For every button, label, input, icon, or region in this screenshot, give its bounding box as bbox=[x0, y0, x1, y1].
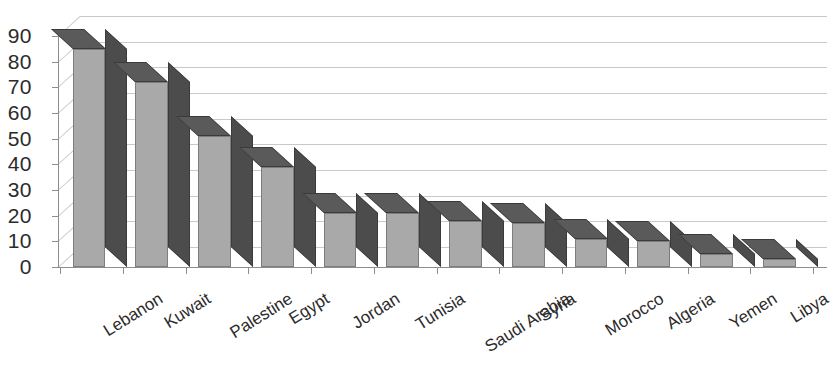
y-axis-tick-label: 90 bbox=[0, 25, 32, 46]
bar bbox=[324, 8, 379, 283]
bar-front-face bbox=[261, 167, 294, 267]
x-axis-tick-mark bbox=[688, 267, 689, 274]
x-axis-category-label: Palestine bbox=[227, 289, 297, 343]
y-axis-tick-label: 80 bbox=[0, 51, 32, 72]
bar-front-face bbox=[198, 136, 231, 267]
y-axis-tick-label: 50 bbox=[0, 128, 32, 149]
y-axis-tick-label: 60 bbox=[0, 102, 32, 123]
bar bbox=[198, 8, 253, 283]
bar bbox=[135, 8, 190, 283]
bar-front-face bbox=[386, 213, 419, 267]
bar-front-face bbox=[575, 239, 608, 267]
y-axis-tick-label: 70 bbox=[0, 76, 32, 97]
x-axis-category-label: Egypt bbox=[285, 289, 332, 329]
bar bbox=[449, 8, 504, 283]
x-axis-tick-mark bbox=[437, 267, 438, 274]
x-axis-tick-mark bbox=[311, 267, 312, 274]
bar-side-face bbox=[545, 203, 567, 267]
bar bbox=[637, 8, 692, 283]
bar bbox=[763, 8, 818, 283]
y-axis-tick-label: 40 bbox=[0, 153, 32, 174]
x-axis-tick-mark bbox=[374, 267, 375, 274]
bar-front-face bbox=[512, 223, 545, 267]
bar-front-face bbox=[324, 213, 357, 267]
bar bbox=[512, 8, 567, 283]
x-axis-category-label: Syria bbox=[536, 289, 579, 326]
x-axis-tick-mark bbox=[750, 267, 751, 274]
bar bbox=[73, 8, 128, 283]
bar bbox=[386, 8, 441, 283]
x-axis-category-label: Jordan bbox=[349, 289, 404, 334]
y-axis-tick-label: 10 bbox=[0, 230, 32, 251]
bar-side-face bbox=[231, 116, 253, 267]
x-axis-category-label: Algeria bbox=[663, 289, 718, 334]
x-axis-category-label: Lebanon bbox=[100, 289, 167, 341]
bar-front-face bbox=[73, 49, 106, 267]
x-axis-category-labels: LebanonKuwaitPalestineEgyptJordanTunisia… bbox=[0, 283, 827, 384]
bar-side-face bbox=[294, 147, 316, 267]
bar-side-face bbox=[356, 193, 378, 267]
x-axis-tick-mark bbox=[123, 267, 124, 274]
x-axis-category-label: Morocco bbox=[602, 289, 668, 341]
x-axis-tick-mark bbox=[186, 267, 187, 274]
x-axis-tick-mark bbox=[499, 267, 500, 274]
x-axis-category-label: Yemen bbox=[726, 289, 781, 334]
x-axis-category-label: Tunisia bbox=[412, 289, 469, 335]
bar-front-face bbox=[637, 241, 670, 267]
bar-side-face bbox=[796, 239, 818, 267]
x-axis-tick-mark bbox=[248, 267, 249, 274]
y-axis-tick-label: 20 bbox=[0, 205, 32, 226]
y-axis-tick-label: 0 bbox=[0, 256, 32, 277]
plot-area bbox=[40, 8, 827, 283]
bar bbox=[575, 8, 630, 283]
bar-front-face bbox=[700, 254, 733, 267]
x-axis-category-label: Libya bbox=[787, 289, 832, 327]
bar bbox=[261, 8, 316, 283]
x-axis-line bbox=[58, 267, 827, 268]
bar-front-face bbox=[135, 82, 168, 267]
bar-front-face bbox=[763, 259, 796, 267]
x-axis-tick-mark bbox=[813, 267, 814, 274]
bar-side-face bbox=[168, 62, 190, 267]
y-axis-line bbox=[58, 36, 59, 267]
x-axis-category-label: Kuwait bbox=[161, 289, 215, 333]
x-axis-tick-mark bbox=[562, 267, 563, 274]
bar-front-face bbox=[449, 221, 482, 267]
y-axis-tick-label: 30 bbox=[0, 179, 32, 200]
x-axis-tick-mark bbox=[60, 267, 61, 274]
x-axis-tick-mark bbox=[625, 267, 626, 274]
